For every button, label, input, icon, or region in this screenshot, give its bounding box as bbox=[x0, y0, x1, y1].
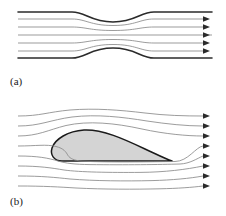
figure-container: (a) bbox=[0, 0, 226, 216]
streamline-b-7 bbox=[18, 176, 203, 181]
arrowhead-a-3 bbox=[203, 32, 210, 38]
arrowhead-a-5 bbox=[203, 48, 210, 54]
panel-b-streamlines-upper bbox=[18, 109, 203, 136]
arrowhead-b-3 bbox=[203, 133, 210, 139]
arrowhead-b-5 bbox=[203, 153, 210, 159]
streamline-a-4 bbox=[18, 40, 203, 44]
panel-b-label: (b) bbox=[10, 195, 23, 208]
arrowhead-b-8 bbox=[203, 183, 210, 189]
arrowhead-a-4 bbox=[203, 40, 210, 46]
channel-top-wall bbox=[18, 12, 212, 22]
streamline-b-8 bbox=[18, 186, 203, 189]
arrowhead-b-7 bbox=[203, 173, 210, 179]
arrowhead-b-6 bbox=[203, 163, 210, 169]
streamline-b-2 bbox=[18, 116, 203, 126]
channel-bottom-wall bbox=[18, 48, 212, 58]
arrowhead-a-1 bbox=[203, 16, 210, 22]
panel-b-group: (b) bbox=[10, 109, 210, 208]
arrowhead-b-1 bbox=[203, 113, 210, 119]
streamline-figure-svg: (a) bbox=[0, 0, 226, 216]
arrowhead-b-4 bbox=[203, 143, 210, 149]
streamline-b-1 bbox=[18, 109, 203, 116]
airfoil-body bbox=[51, 130, 172, 161]
panel-a-arrowheads bbox=[203, 16, 210, 54]
panel-a-streamlines bbox=[18, 19, 212, 51]
streamline-b-6 bbox=[18, 166, 203, 172]
arrowhead-a-2 bbox=[203, 24, 210, 30]
panel-b-arrowheads bbox=[203, 113, 210, 189]
panel-a-group: (a) bbox=[10, 12, 212, 88]
arrowhead-b-2 bbox=[203, 123, 210, 129]
panel-a-label: (a) bbox=[10, 75, 23, 88]
streamline-a-2 bbox=[18, 27, 203, 31]
